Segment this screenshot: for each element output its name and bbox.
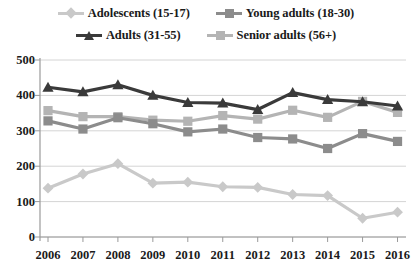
- legend-marker-diamond-icon: [58, 8, 84, 19]
- x-axis-tick-label: 2012: [245, 248, 270, 263]
- square-marker-icon: [216, 31, 225, 40]
- legend-item-adolescents[interactable]: Adolescents (15-17): [58, 6, 190, 21]
- legend-item-young-adults[interactable]: Young adults (18-30): [216, 6, 354, 21]
- legend-label-adults: Adults (31-55): [106, 28, 181, 43]
- data-point-marker: [148, 119, 157, 128]
- x-axis-tick-label: 2007: [70, 248, 95, 263]
- x-axis-tick-label: 2014: [315, 248, 340, 263]
- line-chart: Adolescents (15-17) Young adults (18-30)…: [0, 0, 412, 268]
- square-marker-icon: [225, 9, 234, 18]
- diamond-marker-icon: [66, 7, 77, 18]
- data-point-marker: [288, 134, 297, 143]
- data-point-marker: [43, 116, 52, 125]
- legend-label-senior-adults: Senior adults (56+): [237, 28, 336, 43]
- data-point-marker: [78, 112, 87, 121]
- x-axis-tick-label: 2011: [211, 248, 235, 263]
- legend-marker-square-icon: [207, 30, 233, 41]
- data-point-marker: [43, 183, 54, 194]
- x-axis-tick-label: 2006: [36, 248, 61, 263]
- data-point-marker: [323, 113, 332, 122]
- data-point-marker: [218, 111, 227, 120]
- x-axis-labels: 2006200720082009201020112012201320142015…: [40, 244, 406, 268]
- data-point-marker: [252, 182, 263, 193]
- data-point-marker: [253, 133, 262, 142]
- chart-legend: Adolescents (15-17) Young adults (18-30)…: [0, 0, 412, 48]
- legend-label-young-adults: Young adults (18-30): [246, 6, 354, 21]
- chart-canvas: [0, 48, 412, 268]
- series-0: [43, 158, 403, 223]
- plot-area: 5004003002001000 20062007200820092010201…: [0, 48, 412, 268]
- data-point-marker: [217, 181, 228, 192]
- data-point-marker: [288, 106, 297, 115]
- x-axis-tick-label: 2009: [140, 248, 165, 263]
- x-axis-tick-label: 2016: [385, 248, 410, 263]
- data-point-marker: [218, 124, 227, 133]
- x-axis-tick-label: 2015: [350, 248, 375, 263]
- data-point-marker: [43, 106, 52, 115]
- triangle-marker-icon: [84, 31, 94, 40]
- x-axis-tick-label: 2010: [175, 248, 200, 263]
- legend-label-adolescents: Adolescents (15-17): [88, 6, 190, 21]
- legend-marker-triangle-icon: [76, 30, 102, 41]
- legend-item-senior-adults[interactable]: Senior adults (56+): [207, 28, 336, 43]
- x-axis-tick-label: 2008: [105, 248, 130, 263]
- data-point-marker: [78, 124, 87, 133]
- legend-item-adults[interactable]: Adults (31-55): [76, 28, 181, 43]
- data-point-marker: [183, 117, 192, 126]
- data-point-marker: [78, 169, 89, 180]
- data-point-marker: [392, 207, 403, 218]
- data-point-marker: [323, 144, 332, 153]
- data-point-marker: [183, 127, 192, 136]
- x-axis-tick-label: 2013: [280, 248, 305, 263]
- data-point-marker: [358, 129, 367, 138]
- data-point-marker: [113, 113, 122, 122]
- data-point-marker: [393, 137, 402, 146]
- legend-row-2: Adults (31-55) Senior adults (56+): [0, 24, 412, 46]
- legend-row-1: Adolescents (15-17) Young adults (18-30): [0, 2, 412, 24]
- data-point-marker: [182, 177, 193, 188]
- legend-marker-square-icon: [216, 8, 242, 19]
- data-point-marker: [253, 115, 262, 124]
- data-point-marker: [287, 189, 298, 200]
